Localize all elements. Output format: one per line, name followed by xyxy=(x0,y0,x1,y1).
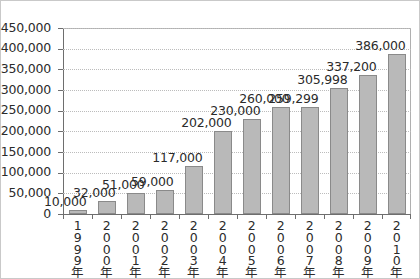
y-axis-tick-mark xyxy=(58,193,63,194)
x-axis-label-char: 年 xyxy=(214,267,232,279)
bar-value-label: 337,200 xyxy=(313,61,377,74)
x-axis-tick-mark xyxy=(266,215,267,219)
bar xyxy=(214,131,232,214)
bar xyxy=(243,119,261,214)
x-axis-label-char: 年 xyxy=(272,267,290,279)
x-axis-tick-mark xyxy=(208,215,209,219)
bar-value-label: 202,000 xyxy=(168,117,232,130)
y-axis-tick-label: 150,000 xyxy=(0,146,51,159)
x-axis-label-char: 年 xyxy=(127,267,145,279)
bar-value-label: 230,000 xyxy=(197,105,261,118)
x-axis-label-char: 年 xyxy=(98,267,116,279)
x-axis-tick-mark xyxy=(410,215,411,219)
x-axis-tick-label: 2006年 xyxy=(272,220,290,279)
x-axis-tick-label: 2005年 xyxy=(243,220,261,279)
x-axis-tick-label: 2008年 xyxy=(330,220,348,279)
bar xyxy=(301,107,319,214)
bar-value-label: 59,000 xyxy=(110,176,174,189)
x-axis-tick-label: 2009年 xyxy=(359,220,377,279)
x-axis-tick-label: 2010年 xyxy=(388,220,406,279)
y-axis-tick-label: 450,000 xyxy=(0,22,51,35)
x-axis-label-char: 年 xyxy=(69,267,87,279)
x-axis-label-char: 年 xyxy=(388,267,406,279)
plot-border-right xyxy=(410,28,411,214)
gridline xyxy=(63,28,411,29)
y-axis-tick-label: 0 xyxy=(0,208,51,221)
x-axis-tick-mark xyxy=(179,215,180,219)
y-axis-tick-mark xyxy=(58,173,63,174)
x-axis-tick-label: 2002年 xyxy=(156,220,174,279)
x-axis-tick-label: 1999年 xyxy=(69,220,87,279)
x-axis-tick-mark xyxy=(63,215,64,219)
x-axis-label-char: 年 xyxy=(185,267,203,279)
x-axis-label-char: 年 xyxy=(156,267,174,279)
bar xyxy=(156,190,174,214)
y-axis-tick-mark xyxy=(58,49,63,50)
x-axis-tick-mark xyxy=(324,215,325,219)
bar xyxy=(359,75,377,214)
y-axis-tick-label: 400,000 xyxy=(0,42,51,55)
bar-value-label: 386,000 xyxy=(342,40,406,53)
y-axis-tick-mark xyxy=(58,69,63,70)
x-axis-tick-mark xyxy=(237,215,238,219)
x-axis-tick-label: 2000年 xyxy=(98,220,116,279)
x-axis-tick-mark xyxy=(121,215,122,219)
x-axis-label-char: 年 xyxy=(359,267,377,279)
x-axis-tick-mark xyxy=(92,215,93,219)
x-axis-tick-mark xyxy=(382,215,383,219)
bar xyxy=(330,88,348,214)
y-axis-tick-mark xyxy=(58,28,63,29)
x-axis-tick-mark xyxy=(295,215,296,219)
y-axis-tick-label: 200,000 xyxy=(0,125,51,138)
y-axis-tick-mark xyxy=(58,131,63,132)
bar-value-label: 117,000 xyxy=(139,152,203,165)
bar xyxy=(127,193,145,214)
bar xyxy=(185,166,203,214)
bar-chart-figure: 450,000400,000350,000300,000250,000200,0… xyxy=(0,0,420,279)
y-axis-tick-mark xyxy=(58,111,63,112)
x-axis-tick-label: 2007年 xyxy=(301,220,319,279)
y-axis-tick-mark xyxy=(58,152,63,153)
x-axis-tick-mark xyxy=(150,215,151,219)
x-axis-label-char: 年 xyxy=(301,267,319,279)
x-axis-tick-mark xyxy=(353,215,354,219)
y-axis-tick-label: 350,000 xyxy=(0,63,51,76)
x-axis-label-char: 年 xyxy=(243,267,261,279)
x-axis-label-char: 年 xyxy=(330,267,348,279)
y-axis-tick-label: 300,000 xyxy=(0,84,51,97)
bar xyxy=(98,201,116,214)
bar-value-label: 305,998 xyxy=(284,74,348,87)
y-axis-tick-label: 250,000 xyxy=(0,104,51,117)
bar xyxy=(272,107,290,214)
y-axis-tick-label: 100,000 xyxy=(0,166,51,179)
bar xyxy=(388,54,406,214)
x-axis-tick-label: 2004年 xyxy=(214,220,232,279)
y-axis-tick-mark xyxy=(58,90,63,91)
x-axis-tick-label: 2003年 xyxy=(185,220,203,279)
bar-value-label: 259,299 xyxy=(255,93,319,106)
x-axis-tick-label: 2001年 xyxy=(127,220,145,279)
